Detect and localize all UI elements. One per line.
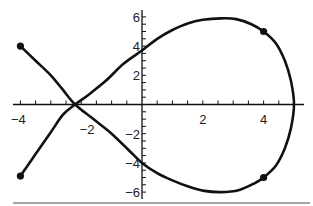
marked-point-dot [260, 174, 267, 181]
parametric-curve-chart: −4−224−6−4−2246 [0, 0, 313, 206]
marked-point-dot [17, 172, 24, 179]
y-tick-label: −2 [125, 127, 140, 142]
marked-point-dot [17, 43, 24, 50]
curve-line [20, 18, 294, 192]
x-tick-label: 2 [199, 112, 206, 127]
x-tick-label: 4 [260, 112, 267, 127]
x-tick-label: −4 [11, 112, 26, 127]
y-tick-label: 2 [133, 68, 140, 83]
y-tick-label: 6 [133, 10, 140, 25]
y-tick-label: −6 [125, 185, 140, 200]
x-tick-label: −2 [80, 122, 95, 137]
marked-point-dot [260, 28, 267, 35]
